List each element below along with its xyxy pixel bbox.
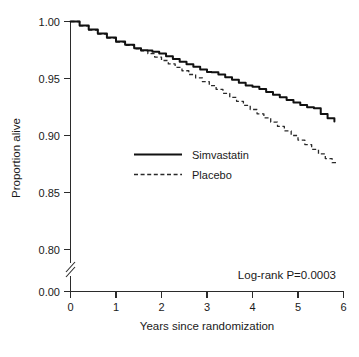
y-tick-label-0.90: 0.90 [39, 130, 60, 142]
x-tick-label-4: 4 [249, 301, 255, 313]
y-tick-label-0.85: 0.85 [39, 187, 60, 199]
placebo-curve [71, 22, 337, 165]
y-tick-label-0.00: 0.00 [39, 286, 60, 298]
x-tick-label-3: 3 [204, 301, 210, 313]
simvastatin-curve [71, 22, 335, 122]
legend-label-simvastatin: Simvastatin [192, 149, 249, 161]
y-axis-break-icon [66, 262, 75, 272]
chart-legend: Simvastatin Placebo [134, 149, 249, 181]
log-rank-annotation: Log-rank P=0.0003 [238, 269, 336, 281]
x-tick-label-0: 0 [67, 301, 73, 313]
x-axis-title: Years since randomization [140, 320, 274, 332]
x-tick-label-1: 1 [113, 301, 119, 313]
y-tick-label-1.00: 1.00 [39, 16, 60, 28]
survival-chart-figure: 1.00 0.95 0.90 0.85 0.80 0.00 0 1 2 3 4 … [0, 0, 359, 357]
plot-area: 1.00 0.95 0.90 0.85 0.80 0.00 0 1 2 3 4 … [0, 0, 359, 357]
x-tick-label-2: 2 [158, 301, 164, 313]
y-tick-label-0.80: 0.80 [39, 244, 60, 256]
y-axis-title: Proportion alive [10, 118, 22, 198]
legend-label-placebo: Placebo [192, 169, 232, 181]
y-tick-label-0.95: 0.95 [39, 73, 60, 85]
x-tick-label-6: 6 [340, 301, 346, 313]
x-tick-label-5: 5 [295, 301, 301, 313]
